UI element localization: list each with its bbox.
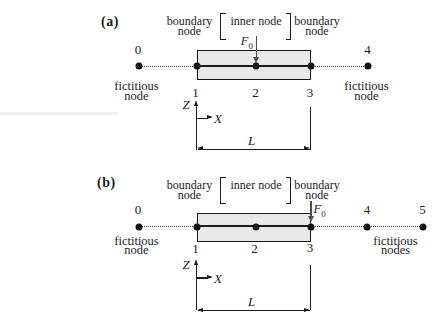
x-axis-label-a: X xyxy=(214,111,222,127)
boundary-node-label-left-a: boundary node xyxy=(167,17,212,36)
node-dot-1-b xyxy=(194,223,201,230)
force-subscript: 0 xyxy=(321,208,326,218)
inner-node-word: inner node xyxy=(231,181,282,191)
force-label-b: F0 xyxy=(314,202,326,217)
boundary-node-label-left-b: boundary node xyxy=(167,181,212,200)
fictitious-nodes-caption-right-b: fictitious nodes xyxy=(373,237,417,256)
dimension-guide-right-b xyxy=(310,265,311,310)
node-dot-0-a xyxy=(136,63,143,70)
length-arrowhead-left-a xyxy=(197,146,203,150)
x-axis-arrowhead-a xyxy=(207,115,213,119)
node-number-1-a: 1 xyxy=(192,85,199,101)
node-dot-4-a xyxy=(364,63,371,70)
z-axis-label-a: Z xyxy=(182,97,189,113)
z-axis-line-b xyxy=(196,265,197,311)
fictitious-node-caption-left-b: fictitious node xyxy=(114,237,158,256)
node-dot-4-b xyxy=(364,223,371,230)
scan-artifact-line xyxy=(0,112,118,115)
node-number-0-b: 0 xyxy=(135,202,142,218)
force-subscript: 0 xyxy=(249,41,254,51)
dotted-line-left-b xyxy=(139,226,197,227)
boundary-node-label-right-b: boundary node xyxy=(294,181,339,200)
z-axis-label-b: Z xyxy=(182,257,189,273)
node-number-4-b: 4 xyxy=(364,202,371,218)
force-symbol: F xyxy=(241,34,249,48)
node-dot-0-b xyxy=(136,223,143,230)
node-number-2-b: 2 xyxy=(251,241,258,257)
panel-label-b: (b) xyxy=(97,175,116,191)
force-arrowhead-a xyxy=(253,57,259,63)
node-number-4-a: 4 xyxy=(364,42,371,58)
boundary-node-label-right-a: boundary node xyxy=(294,17,339,36)
figure-canvas: (a) boundary node inner node boundary no… xyxy=(0,0,442,325)
x-axis-label-b: X xyxy=(214,271,222,287)
node-dot-3-a xyxy=(307,63,314,70)
bracket-open-b xyxy=(220,177,226,204)
bracket-close-a xyxy=(286,13,292,40)
z-axis-line-a xyxy=(196,105,197,150)
node-dot-2-b xyxy=(252,223,259,230)
length-line-b xyxy=(198,310,310,311)
length-arrowhead-left-b xyxy=(197,308,203,312)
force-label-a: F0 xyxy=(228,34,253,49)
force-symbol: F xyxy=(314,202,322,216)
dotted-line-right-a xyxy=(311,66,368,67)
node-dot-2-a xyxy=(252,63,259,70)
node-number-2-a: 2 xyxy=(252,85,259,101)
node-number-5-b: 5 xyxy=(419,202,426,218)
length-arrowhead-right-b xyxy=(304,308,310,312)
dotted-line-left-a xyxy=(139,66,197,67)
bracket-close-b xyxy=(286,177,292,204)
length-arrowhead-right-a xyxy=(304,146,310,150)
node-number-3-b: 3 xyxy=(307,240,314,256)
node-dot-1-a xyxy=(194,63,201,70)
node-number-0-a: 0 xyxy=(135,42,142,58)
length-label-b: L xyxy=(248,294,255,310)
inner-node-label-b: inner node xyxy=(231,181,282,191)
length-line-a xyxy=(198,149,310,150)
node-dot-3-b xyxy=(307,223,314,230)
node-dot-5-b xyxy=(420,223,427,230)
inner-node-label-a: inner node xyxy=(231,17,282,27)
inner-node-word: inner node xyxy=(231,17,282,27)
panel-label-a: (a) xyxy=(101,14,119,30)
bracket-open-a xyxy=(220,13,226,40)
node-number-3-a: 3 xyxy=(307,85,314,101)
x-axis-arrowhead-b xyxy=(207,275,213,279)
fictitious-node-caption-left-a: fictitious node xyxy=(114,82,158,101)
node-number-1-b: 1 xyxy=(192,241,199,257)
force-arrow-line-a xyxy=(256,36,257,57)
force-arrowhead-b xyxy=(308,216,314,222)
fictitious-node-caption-right-a: fictitious node xyxy=(344,82,388,101)
dimension-guide-right-a xyxy=(310,107,311,150)
force-arrow-line-b xyxy=(310,201,311,218)
length-label-a: L xyxy=(248,133,255,149)
